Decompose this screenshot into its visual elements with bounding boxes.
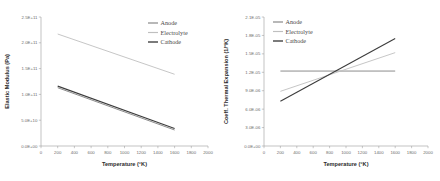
y-ticks-1: 0.0E+003.0E-066.0E-069.0E-061.2E-051.5E-… [244, 15, 264, 149]
y-tick-label: 1.5E+11 [22, 66, 38, 71]
y-axis-title-1: Coeff. Thermal Expansion (1/°K) [223, 39, 229, 124]
y-tick-label: 0.0E+00 [21, 144, 38, 149]
x-tick-label: 1200 [358, 150, 368, 155]
y-ticks-0: 0.0E+005.0E+101.0E+111.5E+112.0E+112.5E+… [21, 15, 41, 149]
x-tick-label: 2000 [203, 150, 213, 155]
series-line-anode [58, 88, 175, 130]
legend-1: AnodeElectrolyteCathode [273, 18, 313, 44]
legend-label-electrolyte: Electrolyte [161, 29, 188, 36]
elastic-modulus-chart: 0.0E+005.0E+101.0E+111.5E+112.0E+112.5E+… [0, 0, 220, 181]
series-line-cathode [58, 86, 175, 128]
x-tick-label: 600 [310, 150, 318, 155]
plot-area-0 [41, 17, 208, 146]
x-tick-label: 400 [71, 150, 79, 155]
legend-label-cathode: Cathode [286, 37, 307, 44]
thermal-expansion-chart: 0.0E+003.0E-066.0E-069.0E-061.2E-051.5E-… [220, 0, 440, 181]
y-tick-label: 1.0E+11 [22, 92, 38, 97]
x-tick-label: 1600 [390, 150, 400, 155]
x-ticks-1: 0200400600800100012001400160018002000 [263, 146, 434, 155]
x-tick-label: 1800 [187, 150, 197, 155]
y-tick-label: 1.8E-05 [245, 33, 261, 38]
series-line-cathode [280, 39, 395, 102]
y-tick-label: 6.0E-06 [245, 107, 261, 112]
x-tick-label: 1200 [136, 150, 146, 155]
y-tick-label: 0.0E+00 [244, 144, 261, 149]
legend-label-anode: Anode [286, 18, 303, 25]
y-tick-label: 1.5E-05 [245, 51, 261, 56]
y-tick-label: 2.0E+11 [22, 40, 38, 45]
x-tick-label: 600 [88, 150, 96, 155]
y-tick-label: 1.2E-05 [245, 70, 261, 75]
x-tick-label: 200 [277, 150, 285, 155]
figure-container: 0.0E+005.0E+101.0E+111.5E+112.0E+112.5E+… [0, 0, 440, 181]
x-ticks-0: 0200400600800100012001400160018002000 [40, 146, 214, 155]
x-tick-label: 1400 [153, 150, 163, 155]
y-axis-title-0: Elastic Modulus (Pa) [4, 54, 10, 109]
x-tick-label: 800 [104, 150, 112, 155]
legend-0: AnodeElectrolyteCathode [148, 19, 188, 45]
x-tick-label: 1800 [407, 150, 417, 155]
x-tick-label: 800 [326, 150, 334, 155]
x-tick-label: 0 [263, 150, 266, 155]
x-axis-title-0: Temperature (°K) [102, 161, 147, 167]
x-tick-label: 1000 [341, 150, 351, 155]
x-tick-label: 200 [54, 150, 62, 155]
x-tick-label: 2000 [423, 150, 433, 155]
legend-label-electrolyte: Electrolyte [286, 28, 313, 35]
data-series-0 [58, 34, 175, 130]
x-tick-label: 0 [40, 150, 43, 155]
x-axis-title-1: Temperature (°K) [323, 161, 368, 167]
y-tick-label: 5.0E+10 [21, 118, 38, 123]
x-tick-label: 1000 [120, 150, 130, 155]
axis-frame [41, 17, 208, 146]
series-line-electrolyte [280, 53, 395, 92]
thermal-expansion-panel: 0.0E+003.0E-066.0E-069.0E-061.2E-051.5E-… [220, 0, 440, 181]
elastic-modulus-panel: 0.0E+005.0E+101.0E+111.5E+112.0E+112.5E+… [0, 0, 220, 181]
y-tick-label: 2.5E+11 [22, 15, 38, 20]
y-tick-label: 2.1E-05 [245, 15, 261, 20]
y-tick-label: 3.0E-06 [245, 125, 261, 130]
series-line-electrolyte [58, 34, 175, 74]
legend-label-anode: Anode [161, 19, 178, 26]
data-series-1 [280, 39, 395, 102]
x-tick-label: 1400 [374, 150, 384, 155]
legend-label-cathode: Cathode [161, 38, 182, 45]
x-tick-label: 1600 [170, 150, 180, 155]
y-tick-label: 9.0E-06 [245, 88, 261, 93]
x-tick-label: 400 [293, 150, 301, 155]
